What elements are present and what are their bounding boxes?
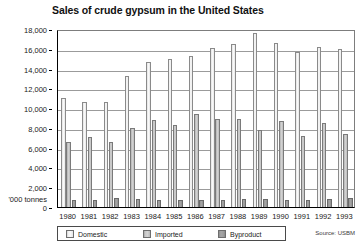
x-tick-label: 1984	[142, 212, 163, 221]
y-tick-mark	[49, 89, 52, 90]
bar-group	[104, 31, 119, 207]
bar-byproduct-1985	[178, 200, 182, 207]
bar-imported-1988	[237, 119, 241, 207]
bar-group	[61, 31, 76, 207]
bar-group	[338, 31, 353, 207]
y-tick-label: 12,000	[24, 85, 47, 94]
x-tick-label: 1993	[334, 212, 355, 221]
bar-imported-1980	[66, 142, 70, 207]
bar-byproduct-1980	[72, 200, 76, 207]
legend-label: Domestic	[78, 231, 107, 238]
chart-legend: DomesticImportedByproduct	[57, 226, 286, 241]
bar-group	[210, 31, 225, 207]
bar-domestic-1993	[338, 49, 342, 207]
bar-group	[274, 31, 289, 207]
bar-group	[231, 31, 246, 207]
bar-imported-1983	[130, 128, 134, 207]
bar-group	[253, 31, 268, 207]
bar-group	[317, 31, 332, 207]
bar-domestic-1981	[82, 102, 86, 207]
y-tick-label: 8,000	[28, 125, 47, 134]
x-tick-label: 1981	[78, 212, 99, 221]
gypsum-sales-chart: Sales of crude gypsum in the United Stat…	[0, 0, 361, 250]
y-tick-label: 4,000	[28, 164, 47, 173]
bar-group	[146, 31, 161, 207]
bar-imported-1991	[301, 136, 305, 207]
x-tick-label: 1985	[163, 212, 184, 221]
bar-domestic-1980	[61, 98, 65, 207]
y-tick-label: 2,000	[28, 184, 47, 193]
x-tick-label: 1987	[206, 212, 227, 221]
legend-swatch-icon	[66, 230, 74, 238]
y-tick-mark	[49, 129, 52, 130]
x-tick-label: 1992	[312, 212, 333, 221]
bar-imported-1984	[152, 120, 156, 207]
bar-group	[125, 31, 140, 207]
chart-title: Sales of crude gypsum in the United Stat…	[52, 4, 264, 16]
x-tick-label: 1982	[100, 212, 121, 221]
legend-item-imported: Imported	[143, 229, 183, 239]
bar-byproduct-1990	[285, 200, 289, 207]
y-tick-mark	[49, 109, 52, 110]
legend-label: Imported	[155, 231, 183, 238]
bar-byproduct-1981	[93, 200, 97, 207]
bar-byproduct-1988	[242, 199, 246, 207]
x-tick-label: 1983	[121, 212, 142, 221]
bar-byproduct-1987	[221, 200, 225, 207]
legend-label: Byproduct	[230, 231, 262, 238]
bar-byproduct-1989	[263, 199, 267, 207]
y-tick-label: 10,000	[24, 105, 47, 114]
y-tick-mark	[49, 70, 52, 71]
y-tick-label: 0	[43, 204, 47, 213]
bar-imported-1981	[88, 137, 92, 207]
bar-imported-1985	[173, 125, 177, 207]
x-tick-label: 1989	[249, 212, 270, 221]
y-axis-unit-label: '000 tonnes	[8, 195, 47, 204]
bar-domestic-1989	[253, 33, 257, 207]
bar-imported-1992	[322, 123, 326, 207]
bar-imported-1990	[279, 121, 283, 207]
y-tick-mark	[49, 149, 52, 150]
bar-byproduct-1991	[306, 200, 310, 207]
source-note: Source: USBM	[315, 230, 355, 236]
bar-byproduct-1993	[348, 198, 352, 207]
x-tick-label: 1988	[227, 212, 248, 221]
y-tick-mark	[49, 30, 52, 31]
bar-byproduct-1983	[136, 199, 140, 207]
bar-domestic-1983	[125, 76, 129, 207]
legend-swatch-icon	[218, 230, 226, 238]
y-axis: 02,0004,0006,0008,00010,00012,00014,0001…	[0, 24, 52, 216]
legend-swatch-icon	[143, 230, 151, 238]
bar-domestic-1985	[168, 59, 172, 207]
legend-item-domestic: Domestic	[66, 229, 107, 239]
y-tick-label: 6,000	[28, 145, 47, 154]
bar-domestic-1991	[295, 52, 299, 207]
x-tick-label: 1991	[291, 212, 312, 221]
plot-area	[57, 30, 355, 208]
bar-byproduct-1986	[199, 200, 203, 207]
x-tick-label: 1980	[57, 212, 78, 221]
y-tick-mark	[49, 188, 52, 189]
bar-imported-1993	[343, 134, 347, 207]
bar-domestic-1990	[274, 43, 278, 207]
y-tick-label: 14,000	[24, 66, 47, 75]
y-tick-mark	[49, 50, 52, 51]
bar-domestic-1982	[104, 102, 108, 207]
y-tick-mark	[49, 168, 52, 169]
bar-domestic-1987	[210, 48, 214, 207]
bar-domestic-1992	[317, 47, 321, 207]
bar-byproduct-1984	[157, 200, 161, 207]
bar-imported-1982	[109, 142, 113, 207]
bar-group	[189, 31, 204, 207]
bar-imported-1989	[258, 130, 262, 207]
bar-domestic-1984	[146, 62, 150, 207]
y-tick-mark	[49, 208, 52, 209]
x-tick-label: 1986	[185, 212, 206, 221]
bar-imported-1987	[215, 119, 219, 207]
bar-imported-1986	[194, 114, 198, 207]
y-tick-label: 18,000	[24, 26, 47, 35]
bar-byproduct-1982	[114, 198, 118, 207]
y-tick-label: 16,000	[24, 46, 47, 55]
x-tick-label: 1990	[270, 212, 291, 221]
bar-byproduct-1992	[327, 199, 331, 207]
